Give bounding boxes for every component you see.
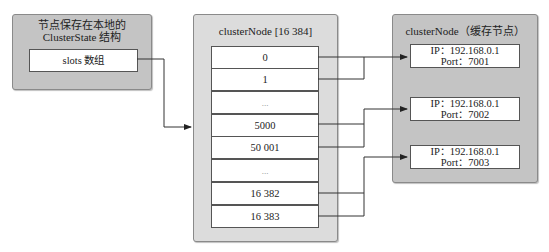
cell-value: ... xyxy=(262,166,269,176)
slots-array-label: slots 数组 xyxy=(63,55,105,66)
cell-value: 16 382 xyxy=(251,188,280,199)
cluster-state-title-line1: 节点保存在本地的 xyxy=(13,19,151,31)
cell-value: ... xyxy=(262,98,269,108)
array-cell: 1 xyxy=(211,68,319,91)
cluster-state-title-line2: ClusterState 结构 xyxy=(13,31,151,43)
cell-value: 16 383 xyxy=(251,211,280,222)
node-port: Port：7003 xyxy=(441,157,490,168)
node-box-7003: IP：192.168.0.1 Port：7003 xyxy=(410,145,520,169)
node-port: Port：7002 xyxy=(441,109,490,120)
node-ip: IP：192.168.0.1 xyxy=(430,146,499,157)
cluster-state-title: 节点保存在本地的 ClusterState 结构 xyxy=(13,19,151,43)
node-box-7002: IP：192.168.0.1 Port：7002 xyxy=(410,97,520,121)
cached-nodes-title: clusterNode（缓存节点） xyxy=(393,25,537,37)
array-cell: 0 xyxy=(211,46,319,69)
node-box-7001: IP：192.168.0.1 Port：7001 xyxy=(410,44,520,68)
array-cell: 5000 xyxy=(211,114,319,137)
node-port: Port：7001 xyxy=(441,56,490,67)
array-cell: 16 382 xyxy=(211,182,319,205)
cell-value: 5000 xyxy=(255,120,276,131)
array-cell: 16 383 xyxy=(211,205,319,228)
node-ip: IP：192.168.0.1 xyxy=(430,45,499,56)
slots-array-box: slots 数组 xyxy=(29,49,138,72)
array-cell: ... xyxy=(211,159,319,182)
cell-value: 1 xyxy=(262,74,267,85)
cluster-node-array-panel: clusterNode [16 384] 0 1 ... 5000 50 001… xyxy=(193,14,338,242)
cached-nodes-panel: clusterNode（缓存节点） IP：192.168.0.1 Port：70… xyxy=(392,14,538,183)
array-cell: ... xyxy=(211,91,319,114)
node-ip: IP：192.168.0.1 xyxy=(430,98,499,109)
cluster-node-array-title: clusterNode [16 384] xyxy=(194,25,337,37)
cell-value: 0 xyxy=(262,52,267,63)
cluster-state-panel: 节点保存在本地的 ClusterState 结构 slots 数组 xyxy=(12,14,152,90)
cell-value: 50 001 xyxy=(251,142,280,153)
array-cell: 50 001 xyxy=(211,136,319,159)
